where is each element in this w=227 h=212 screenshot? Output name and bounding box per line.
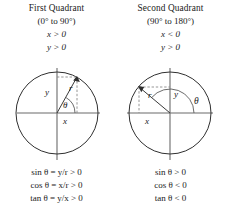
- radius-vector: [139, 87, 170, 113]
- label-x: x: [62, 116, 67, 126]
- formula-cos-second: cos θ < 0: [114, 179, 227, 192]
- panel-first-quadrant: First Quadrant (0° to 90°) x > 0 y > 0: [0, 0, 113, 212]
- label-r: r: [69, 83, 73, 93]
- formula-tan-first: tan θ = y/x > 0: [0, 192, 113, 205]
- unit-circle-diagram-second: r y x θ: [114, 56, 227, 164]
- label-y: y: [173, 89, 178, 99]
- unit-circle-diagram-first: r y x θ: [0, 56, 113, 164]
- condition-x-first: x > 0: [0, 30, 113, 39]
- formula-list-first: sin θ = y/r > 0 cos θ = x/r > 0 tan θ = …: [0, 166, 113, 206]
- condition-y-second: y > 0: [114, 43, 227, 52]
- formula-cos-first: cos θ = x/r > 0: [0, 179, 113, 192]
- condition-y-first: y > 0: [0, 43, 113, 52]
- panel-range-second: (90° to 180°): [114, 17, 227, 26]
- label-y: y: [44, 87, 49, 97]
- panel-title-second: Second Quadrant: [114, 4, 227, 13]
- trigonometry-quadrant-figure: First Quadrant (0° to 90°) x > 0 y > 0: [0, 0, 227, 212]
- formula-tan-second: tan θ < 0: [114, 192, 227, 205]
- formula-list-second: sin θ > 0 cos θ < 0 tan θ < 0: [114, 166, 227, 206]
- label-x: x: [144, 116, 149, 126]
- condition-x-second: x < 0: [114, 30, 227, 39]
- formula-sin-first: sin θ = y/r > 0: [0, 166, 113, 179]
- panel-second-quadrant: Second Quadrant (90° to 180°) x < 0 y > …: [114, 0, 227, 212]
- label-theta: θ: [63, 100, 68, 110]
- formula-sin-second: sin θ > 0: [114, 166, 227, 179]
- label-r: r: [148, 90, 152, 100]
- panel-range-first: (0° to 90°): [0, 17, 113, 26]
- label-theta: θ: [194, 96, 199, 106]
- panel-title-first: First Quadrant: [0, 4, 113, 13]
- angle-arc: [66, 98, 75, 113]
- angle-arc: [152, 89, 194, 113]
